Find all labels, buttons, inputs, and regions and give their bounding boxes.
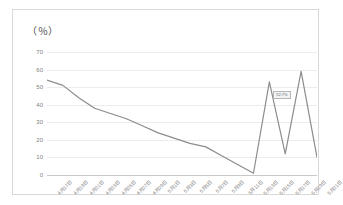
x-axis-tick-label: 5月1日: [166, 178, 182, 194]
y-axis-tick-label: 50: [36, 84, 43, 90]
y-axis-tick-label: 30: [36, 119, 43, 125]
x-axis-tick-label: 4月27日: [135, 178, 153, 196]
y-axis-tick-label: 0: [40, 172, 43, 178]
x-axis-tick-label: 4月21日: [87, 178, 105, 196]
x-axis-tick-label: 5月19日: [309, 178, 327, 196]
y-axis-tick-label: 60: [36, 67, 43, 73]
x-axis-tick-label: 4月23日: [103, 178, 121, 196]
x-axis-tick-label: 5月17日: [294, 178, 312, 196]
x-axis-tick-label: 5月5日: [197, 178, 213, 194]
x-axis-tick-label: 5月3日: [182, 178, 198, 194]
gridline: [47, 175, 317, 176]
data-point-tooltip[interactable]: 52.7%: [273, 91, 290, 99]
chart-frame: （％） 010203040506070 4月17日4月19日4月21日4月23日…: [12, 9, 319, 195]
axis-unit-title: （％）: [27, 23, 59, 38]
x-axis-tick-label: 5月7日: [213, 178, 229, 194]
x-axis-tick-label: 5月13日: [262, 178, 280, 196]
x-axis-tick-label: 4月25日: [119, 178, 137, 196]
x-axis-tick-label: 4月17日: [55, 178, 73, 196]
y-axis-tick-label: 10: [36, 154, 43, 160]
plot-area: 010203040506070 4月17日4月19日4月21日4月23日4月25…: [47, 52, 317, 175]
x-axis-tick-label: 5月21日: [325, 178, 343, 196]
y-axis-tick-label: 40: [36, 102, 43, 108]
y-axis-tick-label: 20: [36, 137, 43, 143]
x-axis-tick-label: 4月19日: [71, 178, 89, 196]
series-line: [47, 52, 317, 175]
x-axis-tick-label: 5月11日: [246, 178, 264, 196]
x-axis-tick-label: 5月9日: [229, 178, 245, 194]
x-axis-tick-label: 5月15日: [278, 178, 296, 196]
y-axis-tick-label: 70: [36, 49, 43, 55]
